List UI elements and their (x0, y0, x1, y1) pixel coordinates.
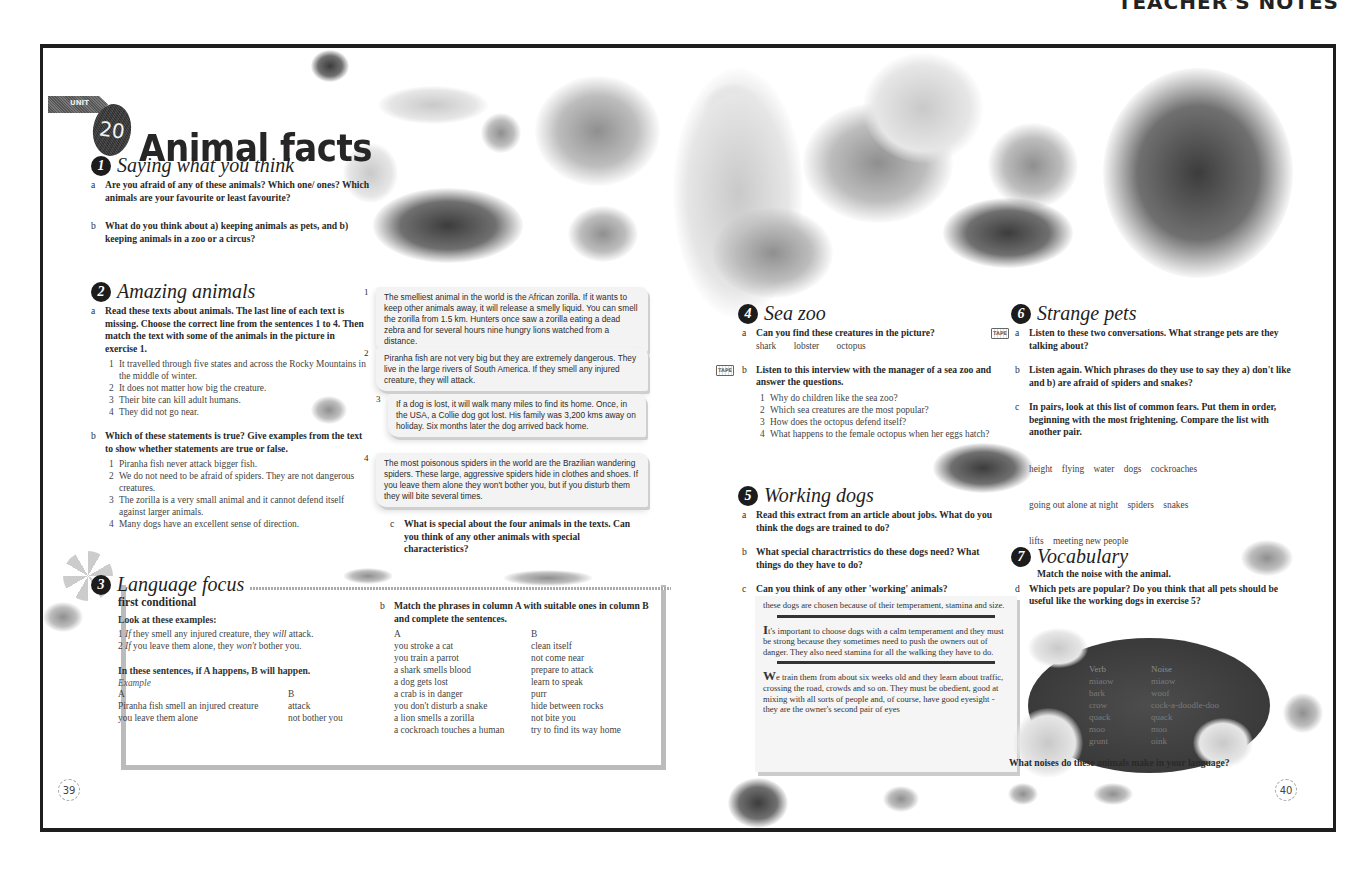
cassette-tape-icon[interactable]: TAPE (716, 365, 734, 376)
question-text: Listen to this interview with the manage… (756, 364, 1010, 389)
cassette-tape-icon[interactable]: TAPE (991, 328, 1009, 339)
reading-text-1: 1The smelliest animal in the world is th… (376, 287, 648, 352)
grammar-examples: 1 If they smell any injured creature, th… (118, 628, 388, 652)
collie-dog-illustration (373, 188, 523, 263)
list-item: 1Why do children like the sea zoo? (760, 392, 1010, 404)
list-item: 3The zorilla is a very small animal and … (109, 494, 369, 518)
lion-illustration (988, 123, 1078, 208)
question-text: Which pets are popular? Do you think tha… (1029, 583, 1301, 608)
section-amazing-animals: 2Amazing animals aRead these texts about… (91, 280, 369, 530)
page-number-left: 39 (58, 779, 80, 801)
list-item: 3Their bite can kill adult humans. (109, 394, 369, 406)
section-title: Working dogs (764, 484, 874, 507)
teachers-notes-header: TEACHER'S NOTES (1118, 0, 1339, 14)
palm-tree-camel-illustration (863, 53, 983, 163)
section-number: 3 (91, 575, 111, 595)
stag-beetle-illustration (728, 778, 788, 828)
person-sitting-illustration (1283, 693, 1323, 733)
example-sentence: 2 If you leave them alone, they won't bo… (118, 640, 388, 652)
book-spread: UNIT 20 Animal facts 1Saying what you th… (40, 44, 1336, 832)
language-focus-left: first conditional Look at these examples… (118, 596, 388, 724)
section-vocabulary: 7Vocabulary Match the noise with the ani… (1011, 545, 1241, 581)
list-item: 4What happens to the female octopus when… (760, 428, 1010, 440)
pig-illustration (1028, 628, 1088, 668)
section-number: 6 (1011, 304, 1031, 324)
section-working-dogs: 5Working dogs aRead this extract from an… (738, 484, 1006, 596)
article-paragraph: We train them from about six weeks old a… (763, 671, 1009, 714)
divider (250, 587, 671, 590)
list-item: 3How does the octopus defend itself? (760, 416, 1010, 428)
divider (777, 615, 995, 618)
question-text: What special charactrristics do these do… (756, 546, 1006, 571)
grammar-rule: In these sentences, if A happens, B will… (118, 665, 388, 676)
cricket-illustration (1093, 783, 1133, 805)
question-text: Match the phrases in column A with suita… (394, 600, 655, 625)
spider-illustration (311, 50, 349, 82)
animal-noises-table: VerbNoise miaowmiaow barkwoof crowcock-a… (1089, 663, 1251, 747)
statements-list: 1Piranha fish never attack bigger fish. … (109, 458, 369, 530)
article-intro: these dogs are chosen because of their t… (763, 600, 1009, 611)
reading-text-2: 2Piranha fish are not very big but they … (376, 348, 648, 391)
article-paragraph: It's important to choose dogs with a cal… (763, 625, 1009, 658)
list-item: 2It does not matter how big the creature… (109, 382, 369, 394)
vocabulary-instruction: Match the noise with the animal. (1037, 568, 1241, 581)
bug-illustration (1008, 783, 1038, 805)
creature-words: shark lobster octopus (756, 340, 1010, 352)
vocabulary-question: What noises do these animals make in you… (1009, 757, 1230, 770)
divider (777, 661, 995, 664)
section-title: Language focus (117, 573, 244, 596)
section-number: 2 (91, 282, 111, 302)
page-number-right: 40 (1275, 779, 1297, 801)
section-number: 1 (91, 156, 111, 176)
question-text: In pairs, look at this list of common fe… (1029, 401, 1301, 439)
shark-illustration (535, 76, 660, 186)
section-title: Saying what you think (117, 154, 294, 177)
lobster-illustration (713, 208, 833, 298)
language-focus-right: bMatch the phrases in column A with suit… (380, 600, 655, 736)
section-number: 4 (738, 304, 758, 324)
skunk-illustration (943, 198, 1073, 268)
list-item: 1It travelled through five states and ac… (109, 358, 369, 382)
question-text: Which of these statements is true? Give … (105, 430, 369, 455)
list-item: 2Which sea creatures are the most popula… (760, 404, 1010, 416)
list-item: 1Piranha fish never attack bigger fish. (109, 458, 369, 470)
elephant-illustration (1103, 68, 1293, 278)
example-table: AB Piranha fish smell an injured creatur… (118, 688, 388, 724)
list-item: 4They did not go near. (109, 406, 369, 418)
cockroach-illustration (568, 206, 638, 262)
section-title: Strange pets (1037, 302, 1136, 325)
question-text: Can you find these creatures in the pict… (756, 327, 935, 340)
section-number: 7 (1011, 547, 1031, 567)
reading-text-4: 4The most poisonous spiders in the world… (376, 453, 648, 507)
grammar-subtitle: first conditional (118, 596, 388, 608)
section-title: Amazing animals (117, 280, 255, 303)
section-language-focus-header: 3 Language focus (91, 573, 671, 596)
section-title: Vocabulary (1037, 545, 1128, 568)
ladybird-illustration (43, 602, 83, 632)
interview-questions: 1Why do children like the sea zoo? 2Whic… (760, 392, 1010, 440)
bug-illustration (883, 786, 919, 812)
matching-table: AB you stroke a catclean itself you trai… (394, 628, 655, 736)
question-text: What is special about the four animals i… (404, 518, 646, 556)
reading-text-3: 3If a dog is lost, it will walk many mil… (388, 394, 646, 437)
example-sentence: 1 If they smell any injured creature, th… (118, 628, 388, 640)
working-dogs-article: these dogs are chosen because of their t… (755, 596, 1017, 772)
question-text: Are you afraid of any of these animals? … (105, 179, 371, 204)
wasp-illustration (481, 113, 521, 153)
section-saying-what-you-think: 1Saying what you think aAre you afraid o… (91, 154, 371, 245)
question-text: What do you think about a) keeping anima… (105, 220, 371, 245)
question-c: cWhat is special about the four animals … (390, 518, 646, 556)
section-sea-zoo: 4Sea zoo aCan you find these creatures i… (738, 302, 1010, 440)
section-title: Sea zoo (764, 302, 826, 325)
question-text: Read this extract from an article about … (756, 509, 1006, 534)
list-item: 4Many dogs have an excellent sense of di… (109, 518, 369, 530)
question-text: Listen again. Which phrases do they use … (1029, 364, 1301, 389)
question-text: Listen to these two conversations. What … (1029, 327, 1301, 352)
lizard-illustration (378, 86, 488, 124)
question-text: Read these texts about animals. The last… (105, 305, 369, 355)
question-text: Can you think of any other 'working' ani… (756, 583, 947, 596)
missing-lines-list: 1It travelled through five states and ac… (109, 358, 369, 418)
list-item: 2We do not need to be afraid of spiders.… (109, 470, 369, 494)
section-number: 5 (738, 486, 758, 506)
